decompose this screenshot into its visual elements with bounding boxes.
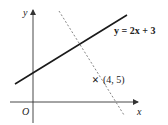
point-label: (4, 5) (103, 74, 125, 86)
equation-label: y = 2x + 3 (114, 25, 155, 36)
coordinate-diagram: × (4, 5) y = 2x + 3 y x O (0, 0, 168, 125)
y-axis-label: y (22, 7, 28, 18)
x-axis-label: x (136, 106, 142, 117)
point-marker-icon: × (92, 73, 99, 87)
origin-label: O (22, 106, 29, 117)
